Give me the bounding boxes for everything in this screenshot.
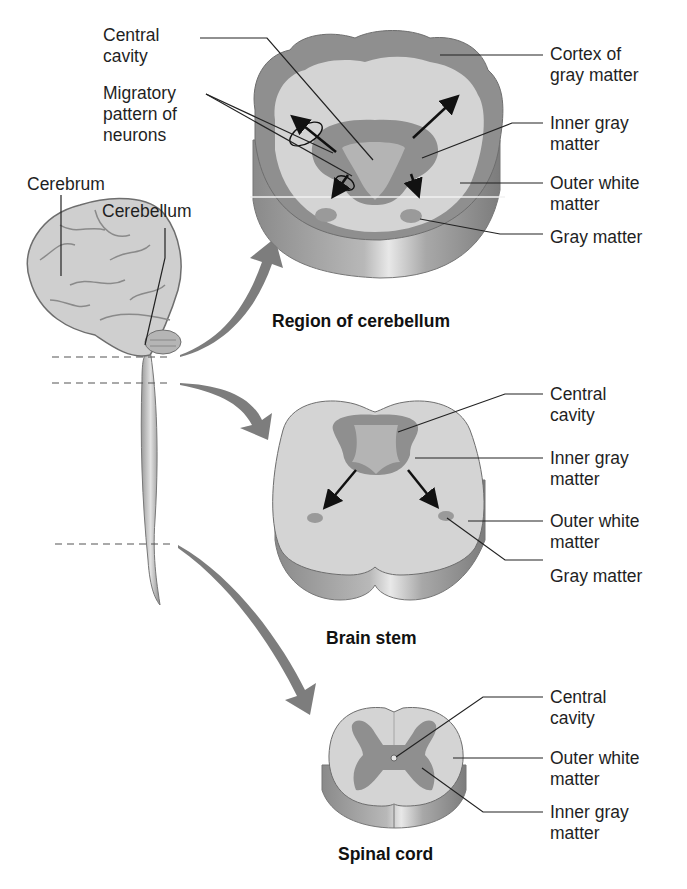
label-cortex-gray-matter: Cortex of gray matter	[550, 44, 639, 86]
brain-stem-section	[273, 401, 485, 600]
label-central-cavity-cerebellum: Central cavity	[103, 25, 159, 67]
label-cerebrum: Cerebrum	[27, 174, 105, 195]
label-inner-gray-matter-brain-stem: Inner gray matter	[550, 448, 629, 490]
label-inner-gray-matter-cerebellum: Inner gray matter	[550, 113, 629, 155]
label-outer-white-matter-cerebellum: Outer white matter	[550, 173, 639, 215]
label-central-cavity-brain-stem: Central cavity	[550, 384, 606, 426]
caption-brain-stem: Brain stem	[326, 628, 416, 649]
cerebellum-section	[250, 31, 505, 279]
arrow-to-cerebellum-section	[180, 238, 283, 357]
label-central-cavity-spinal-cord: Central cavity	[550, 687, 606, 729]
label-migratory-pattern: Migratory pattern of neurons	[103, 83, 177, 146]
label-gray-matter-cerebellum: Gray matter	[550, 227, 642, 248]
label-outer-white-matter-brain-stem: Outer white matter	[550, 511, 639, 553]
caption-region-of-cerebellum: Region of cerebellum	[272, 311, 450, 332]
label-inner-gray-matter-spinal-cord: Inner gray matter	[550, 802, 629, 844]
label-outer-white-matter-spinal-cord: Outer white matter	[550, 748, 639, 790]
arrow-to-brain-stem-section	[180, 383, 272, 440]
spinal-cord-stem	[141, 350, 160, 605]
spinal-cord-section	[322, 707, 466, 828]
label-gray-matter-brain-stem: Gray matter	[550, 566, 642, 587]
caption-spinal-cord: Spinal cord	[338, 844, 433, 865]
label-cerebellum: Cerebellum	[102, 201, 191, 222]
cerebellum-shape	[145, 330, 181, 354]
